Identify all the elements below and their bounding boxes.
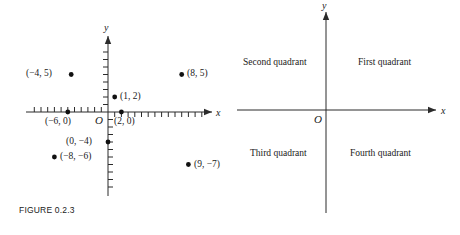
quadrant-label-third: Third quadrant (250, 149, 307, 159)
data-point (186, 162, 191, 167)
point-label-0-neg4: (0, −4) (66, 137, 92, 147)
y-axis-label: y (103, 22, 109, 33)
x-axis-arrowhead (428, 107, 436, 114)
quadrant-label-fourth: Fourth quadrant (350, 149, 411, 159)
data-point (69, 72, 74, 77)
data-point (65, 110, 70, 115)
point-label-neg4-5: (−4, 5) (26, 69, 52, 79)
data-point (112, 95, 117, 100)
figure-0-2-3: x y O (−4, 5) (8, 5) (1, 2) (−6, 0) (2, … (0, 0, 232, 235)
point-label-9-neg7: (9, −7) (194, 160, 220, 170)
x-axis-arrowhead (204, 109, 212, 116)
quadrant-label-first: First quadrant (358, 58, 411, 68)
data-point (119, 110, 124, 115)
data-point (179, 72, 184, 77)
y-axis-label: y (321, 0, 327, 11)
quadrant-label-second: Second quadrant (243, 58, 307, 68)
point-label-2-0: (2, 0) (114, 117, 135, 127)
point-label-8-5: (8, 5) (187, 69, 208, 79)
y-axis-arrowhead (323, 12, 329, 20)
data-point (52, 155, 57, 160)
point-label-1-2: (1, 2) (120, 92, 141, 102)
data-point (106, 140, 111, 145)
figure-caption-left: FIGURE 0.2.3 (19, 205, 75, 215)
x-axis-label: x (440, 105, 446, 116)
point-label-neg6-0: (−6, 0) (45, 117, 71, 127)
x-axis-label: x (215, 107, 221, 118)
origin-label: O (95, 114, 103, 126)
point-label-neg8-neg6: (−8, −6) (60, 152, 91, 162)
origin-label: O (314, 113, 322, 125)
quadrant-diagram: x y O (232, 0, 460, 235)
figure-0-2-4: x y O Second quadrant First quadrant Thi… (232, 0, 460, 235)
y-axis-arrowhead (105, 36, 111, 44)
